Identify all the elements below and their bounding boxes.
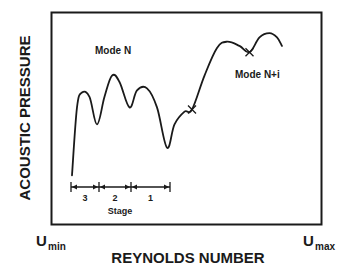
stage-arrow-0-0	[72, 185, 77, 190]
annotation-mode-n: Mode N	[95, 45, 131, 56]
acoustic-pressure-diagram: ACOUSTIC PRESSURE REYNOLDS NUMBER U min …	[0, 0, 349, 269]
stage-arrow-2-1	[164, 185, 169, 190]
annotation-mode-n-plus-i: Mode N+i	[235, 69, 280, 80]
stage-arrow-2-0	[132, 185, 137, 190]
mode-transition-marks	[188, 48, 254, 113]
x-axis-label: REYNOLDS NUMBER	[111, 249, 265, 266]
stage-ruler: 321	[71, 182, 170, 203]
cross-mark-0	[188, 106, 196, 114]
x-tick-min-sub: min	[48, 241, 66, 252]
stage-label: Stage	[108, 206, 133, 216]
x-tick-max: U max	[303, 232, 335, 252]
x-tick-max-sub: max	[315, 241, 335, 252]
stage-arrow-1-0	[100, 185, 105, 190]
stage-arrow-1-1	[125, 185, 130, 190]
stage-segment-label: 1	[148, 193, 153, 203]
stage-arrow-0-1	[93, 185, 98, 190]
x-tick-min-base: U	[36, 232, 47, 249]
x-tick-max-base: U	[303, 232, 314, 249]
stage-segment-label: 2	[112, 193, 117, 203]
y-axis-label: ACOUSTIC PRESSURE	[16, 35, 33, 200]
stage-segment-label: 3	[82, 193, 87, 203]
x-tick-min: U min	[36, 232, 66, 252]
